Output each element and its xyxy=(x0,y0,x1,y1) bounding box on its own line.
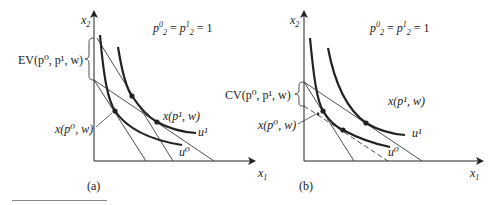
y-axis-label-b: x2 xyxy=(290,14,299,26)
x-p1-w-label-a: x(p¹, w) xyxy=(163,110,200,122)
pointer-x-p0-w-b xyxy=(298,114,316,124)
indifference-curve-u0-b xyxy=(310,38,390,147)
y-axis-label-a: x2 xyxy=(81,14,90,26)
ev-label: EV(p⁰, p¹, w) xyxy=(18,54,83,66)
pointer-x-p0-w-a xyxy=(96,113,112,127)
caption-a: (a) xyxy=(87,180,100,192)
brace-cv xyxy=(295,82,304,106)
x-p0-w-label-b: x(p⁰, w) xyxy=(258,119,296,131)
footnote-rule xyxy=(12,200,107,201)
point-x-p0-w-a xyxy=(112,108,117,113)
x-axis-label-a: x1 xyxy=(258,167,267,179)
compensated-budget-line-b xyxy=(304,106,388,161)
u1-label-b: u¹ xyxy=(412,127,422,139)
cv-label: CV(p⁰, p¹, w) xyxy=(225,89,291,101)
u0-label-b: u⁰ xyxy=(388,146,399,158)
point-x-p1-w-b xyxy=(363,120,368,125)
brace-ev xyxy=(85,38,94,80)
price-note-a: p02 = p12 = 1 xyxy=(153,22,213,34)
u0-label-a: u⁰ xyxy=(179,146,190,158)
panel-b xyxy=(295,14,480,161)
x-axis-label-b: x1 xyxy=(470,167,479,179)
point-a-tangent-u1 xyxy=(129,93,134,98)
u1-label-a: u¹ xyxy=(198,126,208,138)
x-p0-w-label-a: x(p⁰, w) xyxy=(55,123,93,135)
budget-line-p0-steep-a xyxy=(94,80,146,161)
point-x-p1-w-a xyxy=(154,119,159,124)
price-note-b: p02 = p12 = 1 xyxy=(370,22,430,34)
caption-b: (b) xyxy=(299,180,313,192)
budget-line-p0-b xyxy=(304,82,354,161)
point-b-compensated xyxy=(340,127,345,132)
point-b-small xyxy=(317,113,320,116)
point-x-p0-w-b xyxy=(320,108,325,113)
x-p1-w-label-b: x(p¹, w) xyxy=(388,95,425,107)
